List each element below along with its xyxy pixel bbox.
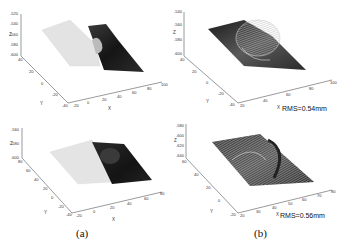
z-tick: -580 <box>174 38 182 42</box>
z-tick: -640 <box>176 154 184 158</box>
z-axis-label: Z <box>173 31 176 36</box>
x-tick: 20 <box>102 98 106 102</box>
x-tick: 80 <box>147 87 151 91</box>
y-tick: 0 <box>218 199 220 203</box>
z-tick: -520 <box>10 12 18 16</box>
z-tick: -600 <box>176 134 184 138</box>
y-tick: -40 <box>229 103 235 107</box>
y-tick: 40 <box>194 173 198 177</box>
plot-a-bottom: -560 -580 -600 Z 80 60 40 20 0 -20 -40 Y… <box>0 120 172 238</box>
z-tick: -540 <box>10 22 18 26</box>
x-tick: 30 <box>256 210 260 214</box>
y-tick: -40 <box>62 104 68 108</box>
x-tick: 60 <box>144 197 148 201</box>
y-tick: -20 <box>52 93 58 97</box>
x-tick: 40 <box>127 202 131 206</box>
x-tick: 20 <box>110 206 114 210</box>
y-axis-label: Y <box>206 100 209 105</box>
y-tick: 20 <box>43 187 47 191</box>
y-tick: -20 <box>58 205 64 209</box>
z-axis-label: Z <box>10 142 13 147</box>
y-tick: 20 <box>192 70 196 74</box>
x-tick: 70 <box>317 194 321 198</box>
rms-annotation: RMS=0.56mm <box>280 212 325 219</box>
y-axis-label: Y <box>210 210 213 215</box>
x-tick: 40 <box>272 206 276 210</box>
z-tick: -560 <box>174 23 182 27</box>
z-axis-label: Z <box>9 33 12 38</box>
x-tick: -20 <box>76 214 82 218</box>
x-tick: 0 <box>93 210 95 214</box>
x-tick: 20 <box>240 214 244 218</box>
x-tick: 60 <box>286 93 290 97</box>
z-axis-label: Z <box>174 139 177 144</box>
z-tick: -580 <box>176 124 184 128</box>
y-tick: 40 <box>180 58 184 62</box>
z-tick: -620 <box>176 144 184 148</box>
surface-plot-b-top <box>172 0 344 118</box>
z-tick: -540 <box>174 10 182 14</box>
x-tick: 80 <box>309 87 313 91</box>
plot-a-top: -520 -540 -560 -580 -600 Z 40 20 0 -20 -… <box>0 0 172 118</box>
y-tick: -40 <box>66 213 72 217</box>
x-axis-label: X <box>276 213 279 218</box>
y-tick: 0 <box>51 196 53 200</box>
y-tick: -20 <box>218 92 224 96</box>
z-tick: -600 <box>10 53 18 57</box>
plot-b-bottom: -580 -600 -620 -640 Z 60 40 20 0 -20 Y 2… <box>172 120 344 238</box>
plot-b-top: -540 -560 -580 -600 Z 40 20 0 -20 -40 Y … <box>172 0 344 118</box>
x-tick: 60 <box>302 198 306 202</box>
x-tick: 0 <box>87 101 89 105</box>
y-tick: 20 <box>206 186 210 190</box>
x-tick: 100 <box>161 83 168 87</box>
x-tick: 20 <box>240 104 244 108</box>
y-tick: 40 <box>18 58 22 62</box>
y-tick: 80 <box>18 160 22 164</box>
z-tick: -580 <box>10 43 18 47</box>
y-tick: 60 <box>182 160 186 164</box>
y-axis-label: Y <box>44 211 47 216</box>
z-tick: -560 <box>11 128 19 132</box>
x-axis-label: X <box>108 107 111 112</box>
z-tick: -600 <box>174 52 182 56</box>
caption-b: (b) <box>254 228 267 239</box>
rms-annotation: RMS=0.54mm <box>282 105 327 112</box>
x-tick: 40 <box>263 99 267 103</box>
y-tick: 0 <box>41 82 43 86</box>
surface-plot-b-bottom <box>172 120 344 220</box>
y-tick: -20 <box>230 213 236 217</box>
y-tick: 60 <box>26 169 30 173</box>
x-tick: 80 <box>331 190 335 194</box>
y-tick: 40 <box>34 178 38 182</box>
x-tick: 60 <box>132 91 136 95</box>
x-tick: 80 <box>160 192 164 196</box>
y-tick: 20 <box>29 70 33 74</box>
y-axis-label: Y <box>40 102 43 107</box>
surface-plot-a-top <box>0 0 172 118</box>
y-tick: 0 <box>206 81 208 85</box>
caption-a: (a) <box>76 228 88 239</box>
x-tick: 50 <box>288 202 292 206</box>
x-tick: 40 <box>117 95 121 99</box>
x-tick: -20 <box>73 104 79 108</box>
x-tick: 100 <box>330 81 337 85</box>
x-axis-label: X <box>277 106 280 111</box>
x-axis-label: X <box>112 218 115 223</box>
